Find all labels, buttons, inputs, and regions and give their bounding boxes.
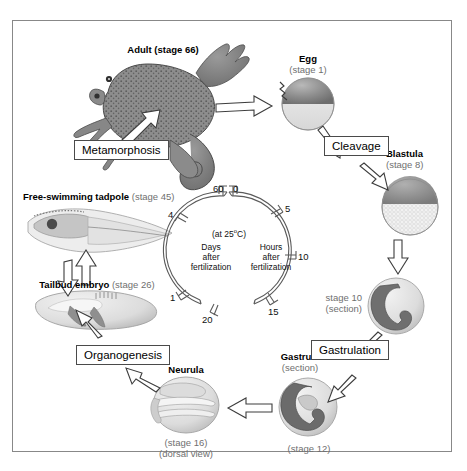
clock-tick-day-1: 1 xyxy=(170,292,175,303)
label-tailbud: Tailbud embryo (stage 26) xyxy=(39,279,154,290)
diagram-canvas: Adult (stage 66) Egg (stage 1) Blastula … xyxy=(0,0,467,471)
clock-tick-5: 5 xyxy=(285,203,290,214)
label-stage10: stage 10 (section) xyxy=(326,292,362,314)
gastrula-illustration xyxy=(279,378,337,436)
clock-tick-60: 60 xyxy=(213,183,224,194)
process-box-metamorphosis[interactable]: Metamorphosis xyxy=(74,140,169,160)
label-gastrula-stage: (stage 12) xyxy=(288,443,331,454)
process-box-gastrulation[interactable]: Gastrulation xyxy=(311,340,389,360)
clock-days-label: Days after fertilization xyxy=(178,242,244,272)
label-adult: Adult (stage 66) xyxy=(127,44,198,55)
egg-illustration xyxy=(280,78,334,130)
clock-tick-20: 20 xyxy=(202,314,213,325)
clock-tick-10: 10 xyxy=(298,251,309,262)
tailbud-embryo-illustration xyxy=(36,291,157,330)
stage10-illustration xyxy=(368,278,424,334)
process-box-organogenesis[interactable]: Organogenesis xyxy=(76,345,170,365)
neurula-illustration xyxy=(151,377,219,433)
clock-tick-15: 15 xyxy=(268,306,279,317)
clock-hours-label: Hours after fertilization xyxy=(238,242,304,272)
adult-frog-illustration xyxy=(74,44,249,190)
label-neurula: Neurula xyxy=(168,364,203,375)
label-tadpole: Free-swimming tadpole (stage 45) xyxy=(23,191,175,202)
clock-tick-day-4: 4 xyxy=(168,209,173,220)
label-egg: Egg (stage 1) xyxy=(289,53,327,75)
label-neurula-stage: (stage 16) (dorsal view) xyxy=(159,437,213,459)
clock-temperature: (at 25oC) xyxy=(199,226,259,239)
tadpole-illustration xyxy=(28,209,172,252)
clock-tick-0: 0 xyxy=(233,183,238,194)
process-box-cleavage[interactable]: Cleavage xyxy=(324,136,389,156)
label-blastula: Blastula (stage 8) xyxy=(386,148,424,170)
blastula-illustration xyxy=(382,176,438,235)
